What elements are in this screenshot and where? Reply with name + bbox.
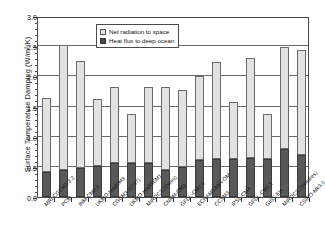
- bar-segment-net-radiation: [178, 90, 187, 167]
- y-tick-mark: [33, 198, 37, 199]
- bar-segment-net-radiation: [195, 76, 204, 159]
- y-tick-label: 2.0: [0, 73, 37, 82]
- bar-segment-heat-flux: [42, 172, 51, 197]
- bar-segment-net-radiation: [127, 114, 136, 163]
- bar-segment-net-radiation: [59, 45, 68, 170]
- legend-item: Heat flux to deep ocean: [100, 36, 174, 45]
- bar-segment-net-radiation: [42, 98, 51, 172]
- bar-segment-heat-flux: [76, 168, 85, 197]
- bar: [93, 99, 102, 197]
- bar: [42, 98, 51, 197]
- y-tick-label: 1.5: [0, 103, 37, 112]
- bar-segment-net-radiation: [76, 61, 85, 168]
- bar-segment-heat-flux: [229, 159, 238, 197]
- bar: [297, 50, 306, 197]
- bar: [229, 102, 238, 197]
- bar: [246, 58, 255, 197]
- bar: [280, 47, 289, 197]
- chart-legend: Net radiation to space Heat flux to deep…: [96, 24, 179, 48]
- y-tick-label: 0.5: [0, 163, 37, 172]
- bar-segment-net-radiation: [212, 62, 221, 159]
- bar: [195, 76, 204, 197]
- bar-segment-net-radiation: [144, 87, 153, 162]
- dark-swatch: [100, 38, 106, 44]
- legend-item-label: Net radiation to space: [109, 28, 169, 35]
- y-tick-label: 1.0: [0, 133, 37, 142]
- bar: [212, 62, 221, 197]
- bar-segment-net-radiation: [110, 87, 119, 163]
- y-tick-label: 3.0: [0, 13, 37, 22]
- light-swatch: [100, 29, 106, 35]
- bar-segment-net-radiation: [263, 114, 272, 159]
- y-tick-label: 2.5: [0, 43, 37, 52]
- bar-segment-net-radiation: [280, 47, 289, 150]
- bar: [76, 61, 85, 197]
- bar-segment-net-radiation: [246, 58, 255, 158]
- bar: [59, 45, 68, 197]
- bar-segment-net-radiation: [229, 102, 238, 159]
- y-tick-label: 0.0: [0, 194, 37, 203]
- legend-item: Net radiation to space: [100, 27, 174, 36]
- bar-segment-net-radiation: [93, 99, 102, 165]
- bar-segment-net-radiation: [297, 50, 306, 155]
- bar-segment-net-radiation: [161, 87, 170, 171]
- legend-item-label: Heat flux to deep ocean: [109, 37, 174, 44]
